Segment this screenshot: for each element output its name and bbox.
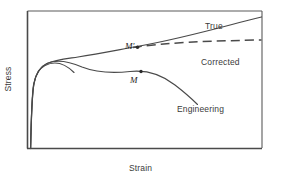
y-axis-label: Stress: [3, 57, 13, 101]
m-prime-point-marker: [136, 45, 140, 49]
x-axis-label: Strain: [0, 163, 281, 173]
engineering-curve-elastic: [31, 63, 74, 149]
series-label-true: True: [205, 21, 223, 31]
point-label-m-prime: M′: [125, 41, 134, 51]
m-point-marker: [139, 70, 142, 73]
true-curve: [31, 17, 262, 149]
plot-frame: [27, 11, 262, 149]
plot-canvas: [0, 0, 281, 181]
series-label-corrected: Corrected: [201, 57, 240, 67]
stress-strain-figure: Stress Strain True Corrected Engineering…: [0, 0, 281, 181]
engineering-curve: [31, 61, 198, 148]
series-label-engineering: Engineering: [177, 104, 224, 114]
point-label-m: M: [130, 75, 138, 85]
